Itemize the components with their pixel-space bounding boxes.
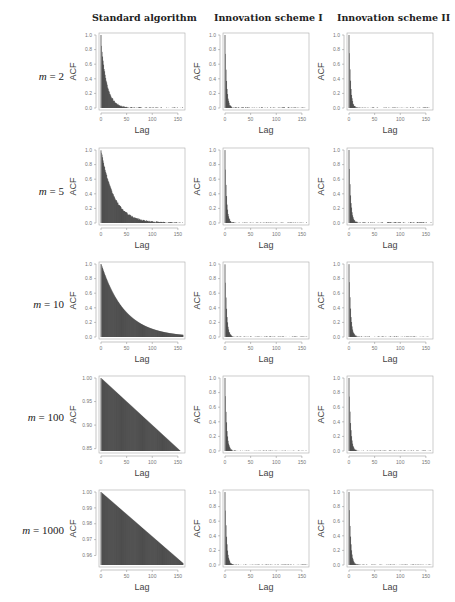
x-axis: 050100150 bbox=[100, 456, 183, 465]
y-tick-label: 0.6 bbox=[333, 61, 340, 67]
x-tick-label: 50 bbox=[248, 231, 254, 237]
x-axis: 050100150 bbox=[100, 570, 183, 579]
y-tick-label: 0.0 bbox=[85, 334, 92, 340]
x-axis-title: Lag bbox=[258, 354, 273, 364]
y-tick-label: 0.6 bbox=[209, 404, 216, 410]
y-tick-label: 1.0 bbox=[333, 32, 340, 38]
acf-bars bbox=[225, 492, 307, 565]
y-tick-label: 0.4 bbox=[333, 533, 340, 539]
column-title-innovation-scheme-2: Innovation scheme II bbox=[337, 12, 447, 23]
acf-bars bbox=[225, 264, 307, 337]
y-tick-label: 1.0 bbox=[209, 375, 216, 381]
x-tick-label: 100 bbox=[148, 573, 157, 579]
x-tick-label: 100 bbox=[148, 231, 157, 237]
x-axis-title: Lag bbox=[134, 468, 149, 478]
x-tick-label: 50 bbox=[248, 573, 254, 579]
acf-plot-row3-col0: 0.850.900.951.00050100150LagACF bbox=[64, 369, 194, 481]
x-tick-label: 0 bbox=[100, 459, 103, 465]
y-tick-label: 0.2 bbox=[209, 433, 216, 439]
row-label-value: = 10 bbox=[41, 298, 64, 310]
y-axis: 0.00.20.40.60.81.0 bbox=[209, 261, 220, 340]
x-tick-label: 50 bbox=[372, 459, 378, 465]
y-tick-label: 0.8 bbox=[333, 46, 340, 52]
y-tick-label: 0.2 bbox=[85, 205, 92, 211]
y-tick-label: 0.4 bbox=[85, 305, 92, 311]
y-tick-label: 0.8 bbox=[209, 503, 216, 509]
y-tick-label: 1.0 bbox=[209, 32, 216, 38]
y-tick-label: 0.0 bbox=[333, 105, 340, 111]
x-axis: 050100150 bbox=[224, 228, 307, 237]
x-tick-label: 150 bbox=[298, 573, 307, 579]
y-tick-label: 1.0 bbox=[209, 261, 216, 267]
y-tick-label: 0.2 bbox=[333, 90, 340, 96]
y-axis-title: ACF bbox=[192, 519, 202, 538]
acf-bars bbox=[225, 35, 307, 108]
x-axis-title: Lag bbox=[134, 125, 149, 135]
row-label-var: m bbox=[39, 70, 47, 82]
y-tick-label: 0.6 bbox=[209, 518, 216, 524]
acf-plot-row2-col1: 0.00.20.40.60.81.0050100150LagACF bbox=[188, 255, 318, 367]
y-axis-title: ACF bbox=[68, 177, 78, 196]
y-tick-label: 0.4 bbox=[209, 76, 216, 82]
x-axis: 050100150 bbox=[348, 228, 431, 237]
y-tick-label: 1.00 bbox=[82, 489, 92, 495]
x-tick-label: 0 bbox=[224, 573, 227, 579]
x-tick-label: 0 bbox=[348, 345, 351, 351]
y-tick-label: 0.8 bbox=[333, 503, 340, 509]
y-tick-label: 0.6 bbox=[85, 176, 92, 182]
x-tick-label: 50 bbox=[124, 573, 130, 579]
y-tick-label: 0.6 bbox=[85, 290, 92, 296]
x-tick-label: 100 bbox=[272, 231, 281, 237]
y-tick-label: 0.8 bbox=[333, 275, 340, 281]
y-axis: 0.00.20.40.60.81.0 bbox=[85, 261, 96, 340]
acf-bars bbox=[349, 35, 431, 108]
y-axis: 0.960.970.980.991.00 bbox=[82, 489, 96, 558]
acf-plot-row2-col2: 0.00.20.40.60.81.0050100150LagACF bbox=[312, 255, 442, 367]
plot-frame bbox=[347, 33, 433, 110]
y-tick-label: 1.00 bbox=[82, 375, 92, 381]
acf-bars bbox=[225, 378, 307, 451]
x-tick-label: 100 bbox=[396, 345, 405, 351]
x-axis-title: Lag bbox=[382, 582, 397, 592]
y-tick-label: 0.6 bbox=[209, 61, 216, 67]
acf-plot-row1-col2: 0.00.20.40.60.81.0050100150LagACF bbox=[312, 141, 442, 253]
y-tick-label: 1.0 bbox=[333, 261, 340, 267]
x-tick-label: 50 bbox=[372, 573, 378, 579]
acf-bars bbox=[101, 378, 183, 451]
x-tick-label: 150 bbox=[422, 345, 431, 351]
x-axis: 050100150 bbox=[348, 456, 431, 465]
row-label-value: = 1000 bbox=[30, 524, 64, 536]
y-tick-label: 0.85 bbox=[82, 445, 92, 451]
y-tick-label: 0.0 bbox=[209, 220, 216, 226]
y-axis: 0.00.20.40.60.81.0 bbox=[209, 147, 220, 226]
y-axis: 0.00.20.40.60.81.0 bbox=[209, 375, 220, 454]
y-tick-label: 0.8 bbox=[333, 389, 340, 395]
y-tick-label: 1.0 bbox=[85, 261, 92, 267]
x-tick-label: 150 bbox=[298, 459, 307, 465]
y-axis: 0.850.900.951.00 bbox=[82, 375, 96, 452]
x-tick-label: 100 bbox=[272, 116, 281, 122]
y-tick-label: 0.2 bbox=[209, 319, 216, 325]
y-tick-label: 0.4 bbox=[209, 191, 216, 197]
y-tick-label: 0.0 bbox=[85, 220, 92, 226]
x-axis: 050100150 bbox=[348, 113, 431, 122]
y-tick-label: 0.2 bbox=[85, 90, 92, 96]
row-label-m-1000: m = 1000 bbox=[0, 524, 64, 536]
x-tick-label: 0 bbox=[224, 459, 227, 465]
y-tick-label: 0.2 bbox=[333, 433, 340, 439]
x-tick-label: 0 bbox=[100, 116, 103, 122]
plot-frame bbox=[223, 33, 309, 110]
y-tick-label: 0.8 bbox=[85, 275, 92, 281]
y-axis-title: ACF bbox=[316, 62, 326, 81]
y-tick-label: 0.4 bbox=[209, 305, 216, 311]
y-tick-label: 0.0 bbox=[209, 105, 216, 111]
x-tick-label: 150 bbox=[174, 459, 183, 465]
y-axis-title: ACF bbox=[192, 291, 202, 310]
x-axis-title: Lag bbox=[134, 354, 149, 364]
y-tick-label: 0.4 bbox=[333, 419, 340, 425]
y-axis-title: ACF bbox=[316, 405, 326, 424]
y-axis-title: ACF bbox=[316, 177, 326, 196]
acf-plot-row3-col2: 0.00.20.40.60.81.0050100150LagACF bbox=[312, 369, 442, 481]
plot-frame bbox=[347, 490, 433, 567]
y-tick-label: 0.4 bbox=[209, 533, 216, 539]
